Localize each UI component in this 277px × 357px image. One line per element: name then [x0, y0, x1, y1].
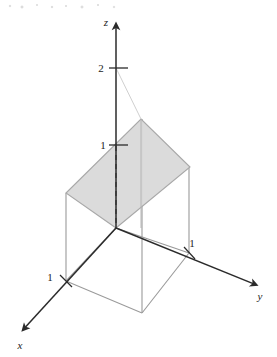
base-edge-x1-to-xy: [66, 281, 142, 313]
figure-canvas: z y x 2 1 1 1: [0, 0, 277, 357]
shaded-plane-polygon: [66, 119, 190, 228]
shaded-plane-region: [66, 119, 190, 228]
y-axis-line: [116, 228, 254, 284]
z-axis-label: z: [103, 16, 109, 28]
x-axis-label: x: [17, 339, 23, 351]
x-tick-label-1: 1: [47, 271, 53, 283]
y-tick-label-1: 1: [189, 237, 195, 249]
coordinate-diagram: z y x 2 1 1 1: [0, 0, 277, 357]
base-edge-xy-to-y1: [142, 253, 189, 313]
x-axis-line: [24, 228, 116, 328]
z-tick-label-1: 1: [100, 139, 106, 151]
guide-line-z2-to-plane-peak: [116, 68, 141, 119]
y-axis-label: y: [257, 290, 263, 302]
z-tick-label-2: 2: [98, 62, 104, 74]
